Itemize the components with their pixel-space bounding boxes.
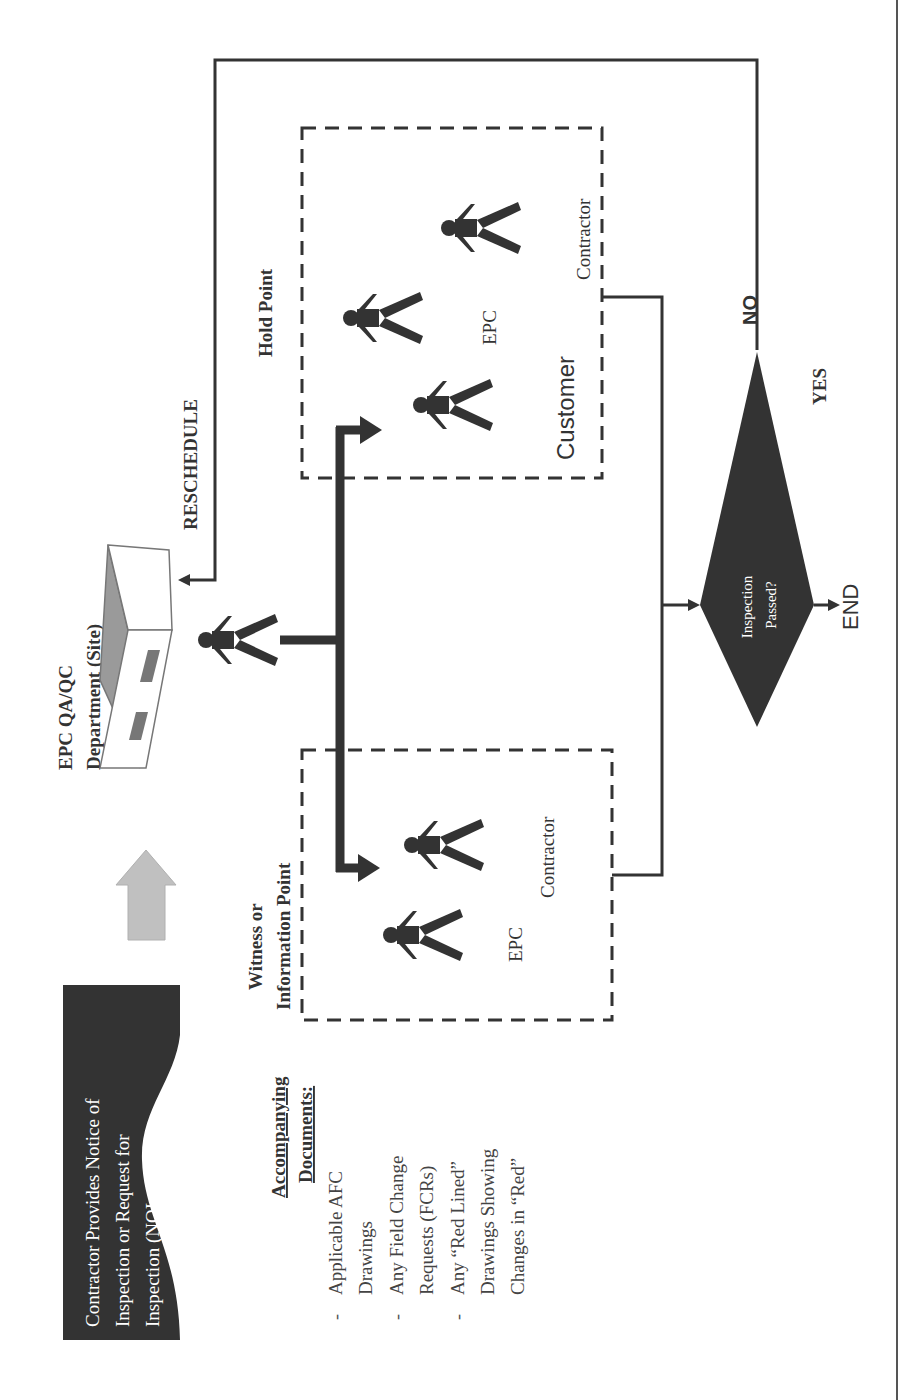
hold-point-group: Hold Point Customer EPC (255, 128, 602, 478)
hold-epc-person-icon (343, 292, 423, 344)
bullet-3: - (448, 1314, 468, 1320)
hold-point-title: Hold Point (255, 268, 276, 357)
documents-list: Accompanying Documents: - - - Applicable… (268, 1076, 528, 1320)
customer-person-icon (413, 379, 493, 431)
start-box-line-1: Contractor Provides Notice of (82, 1098, 103, 1327)
hold-epc-label: EPC (479, 310, 500, 345)
yes-label: YES (809, 368, 830, 405)
witness-title-line-1: Witness or (245, 903, 266, 990)
hold-contractor-person-icon (441, 202, 521, 254)
department-line-1: EPC QA/QC (55, 665, 76, 770)
doc-item-3-line-2: Drawings Showing (477, 1148, 498, 1295)
distribution-trunk (336, 416, 382, 882)
decision-line-1: Inspection (739, 575, 755, 638)
doc-item-1-line-1: Applicable AFC (325, 1171, 346, 1295)
building-icon (100, 545, 172, 768)
svg-text:Witness or Information: Witness or Information Point (245, 862, 294, 1010)
doc-item-1-line-2: Drawings (355, 1221, 376, 1295)
hold-contractor-label: Contractor (573, 198, 594, 280)
doc-item-2-line-1: Any Field Change (386, 1156, 407, 1295)
witness-contractor-person-icon (404, 819, 484, 871)
svg-text:Applicable AFC Drawing: Applicable AFC Drawings (325, 1166, 376, 1295)
start-box-line-2: Inspection or Request for (112, 1134, 133, 1327)
end-label: END (838, 584, 863, 630)
inspection-flow-diagram: Contractor Provides Notice of Inspection… (0, 0, 910, 1400)
witness-epc-person-icon (383, 909, 463, 961)
customer-label: Customer (552, 356, 579, 460)
witness-point-group: Witness or Information Point EPC Cont (245, 750, 612, 1020)
yes-to-end-connector (814, 599, 840, 611)
svg-text:Any “Red Lined” Drawin: Any “Red Lined” Drawings Showing Changes… (447, 1144, 528, 1295)
decision-diamond: Inspection Passed? (700, 352, 814, 727)
doc-item-2-line-2: Requests (FCRs) (416, 1166, 438, 1295)
bullet-2: - (387, 1314, 407, 1320)
documents-heading-line-2: Documents: (295, 1086, 316, 1183)
inspector-person-icon (198, 614, 278, 666)
doc-item-3-line-3: Changes in “Red” (507, 1158, 528, 1295)
witness-epc-label: EPC (505, 927, 526, 962)
start-box: Contractor Provides Notice of Inspection… (63, 985, 180, 1340)
bullet-1: - (326, 1314, 346, 1320)
start-box-line-3: Inspection (NOI or RFI) (142, 1142, 164, 1327)
witness-contractor-label: Contractor (537, 816, 558, 898)
doc-item-3-line-1: Any “Red Lined” (447, 1161, 468, 1295)
documents-heading-line-1: Accompanying (268, 1076, 289, 1198)
no-label: NO (739, 295, 761, 325)
witness-title-line-2: Information Point (273, 862, 294, 1010)
svg-text:EPC QA/QC Department (: EPC QA/QC Department (Site) (55, 624, 105, 770)
department-label: EPC QA/QC Department (Site) (55, 624, 105, 770)
block-arrow-icon (116, 850, 176, 940)
svg-text:Any Field Change Reque: Any Field Change Requests (FCRs) (386, 1151, 438, 1295)
reschedule-label: RESCHEDULE (180, 399, 201, 530)
decision-line-2: Passed? (763, 581, 779, 629)
groups-to-decision-connector (602, 297, 700, 875)
